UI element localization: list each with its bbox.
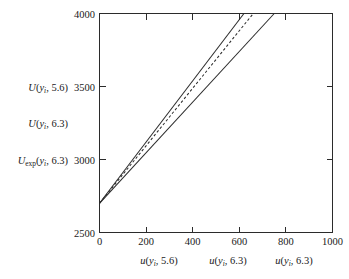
x-tick-label: 400 <box>185 236 201 247</box>
curve-label-u-56: U(yi, 5.6) <box>28 82 68 95</box>
x-tick-label: 600 <box>231 236 247 247</box>
x-curve-label-u-63-b: u(yi, 6.3) <box>275 255 313 268</box>
chart-figure: 4000 3500 3000 2500 U(yi, 5.6) U(yi, 6.3… <box>0 0 349 279</box>
x-axis-ticks-top <box>146 14 286 20</box>
y-tick-label: 3500 <box>74 82 95 93</box>
curve-label-uexp-63: Uexp(yi, 6.3) <box>18 155 69 168</box>
x-tick-label: 1000 <box>322 236 343 247</box>
y-curve-labels: U(yi, 5.6) U(yi, 6.3) Uexp(yi, 6.3) <box>18 82 69 168</box>
x-curve-labels: u(yi, 5.6) u(yi, 6.3) u(yi, 6.3) <box>140 255 313 268</box>
series-line-1 <box>100 14 244 204</box>
x-tick-label: 800 <box>278 236 294 247</box>
y-tick-label: 3000 <box>74 155 95 166</box>
curve-label-u-63: U(yi, 6.3) <box>28 118 68 131</box>
x-curve-label-u-63-a: u(yi, 6.3) <box>209 255 247 268</box>
x-tick-labels: 0 200 400 600 800 1000 <box>97 236 343 247</box>
y-tick-labels: 4000 3500 3000 2500 <box>74 9 95 239</box>
plot-frame <box>100 14 333 233</box>
series-line-3 <box>100 14 275 204</box>
series-group <box>100 14 275 204</box>
x-tick-label: 200 <box>138 236 154 247</box>
series-line-2 <box>100 14 254 204</box>
x-tick-label: 0 <box>97 236 102 247</box>
line-chart: 4000 3500 3000 2500 U(yi, 5.6) U(yi, 6.3… <box>0 0 349 279</box>
y-tick-label: 4000 <box>74 9 95 20</box>
x-curve-label-u-56: u(yi, 5.6) <box>140 255 178 268</box>
y-axis-ticks-right <box>327 87 333 160</box>
y-tick-label: 2500 <box>74 228 95 239</box>
x-axis-ticks-bottom <box>100 227 333 233</box>
